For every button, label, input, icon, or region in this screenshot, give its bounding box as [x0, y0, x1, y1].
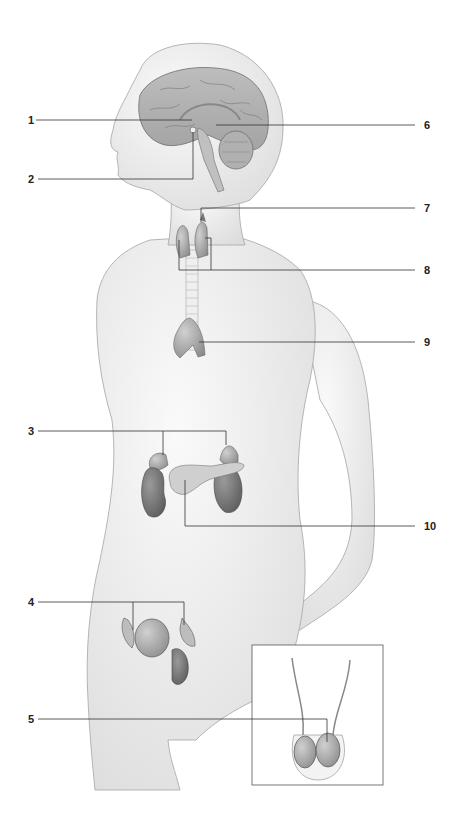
diagram-figure [0, 0, 467, 825]
label-4: 4 [28, 596, 34, 608]
endocrine-diagram: 1 2 3 4 5 6 7 8 9 10 [0, 0, 467, 825]
label-5: 5 [28, 713, 34, 725]
label-1: 1 [28, 114, 34, 126]
male-inset [252, 645, 383, 785]
label-7: 7 [424, 202, 430, 214]
label-9: 9 [424, 336, 430, 348]
label-6: 6 [424, 119, 430, 131]
label-10: 10 [424, 520, 436, 532]
label-2: 2 [28, 173, 34, 185]
label-8: 8 [424, 264, 430, 276]
label-3: 3 [28, 425, 34, 437]
